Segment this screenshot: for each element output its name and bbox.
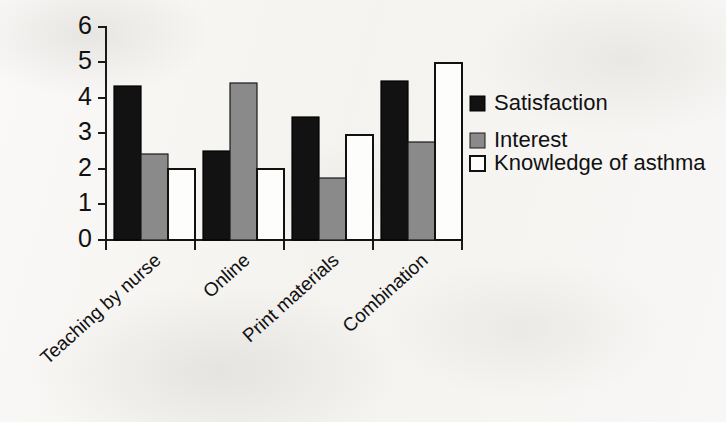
bar-group xyxy=(203,83,284,240)
y-axis-ticks xyxy=(98,27,106,240)
bar-satisfaction xyxy=(114,86,141,240)
bar-satisfaction xyxy=(381,81,408,240)
bar-interest xyxy=(408,142,435,240)
legend-swatch-interest xyxy=(470,133,485,148)
bar-satisfaction xyxy=(292,117,319,240)
legend-item-knowledge-of-asthma: Knowledge of asthma xyxy=(470,150,706,175)
category-label: Teaching by nurse xyxy=(36,249,165,368)
bar-interest xyxy=(319,178,346,240)
chart-legend: Satisfaction Interest Knowledge of asthm… xyxy=(470,90,706,175)
bar-interest xyxy=(141,154,168,240)
bar-knowledge-of-asthma xyxy=(168,169,195,240)
legend-item-satisfaction: Satisfaction xyxy=(470,90,608,115)
y-tick-label: 6 xyxy=(78,11,92,39)
legend-label-knowledge-of-asthma: Knowledge of asthma xyxy=(494,150,706,175)
bar-knowledge-of-asthma xyxy=(435,63,462,240)
y-tick-label: 2 xyxy=(78,153,92,181)
y-tick-label: 5 xyxy=(78,46,92,74)
y-tick-label: 0 xyxy=(78,224,92,252)
bar-satisfaction xyxy=(203,151,230,240)
y-tick-label: 1 xyxy=(78,188,92,216)
x-axis-ticks xyxy=(106,240,462,250)
bar-group xyxy=(292,117,373,240)
bar-group xyxy=(114,86,195,240)
category-label: Combination xyxy=(338,249,431,336)
x-axis-category-labels: Teaching by nurse Online Print materials… xyxy=(36,249,432,368)
legend-label-interest: Interest xyxy=(494,127,567,152)
bar-interest xyxy=(230,83,257,240)
legend-swatch-satisfaction xyxy=(470,96,485,111)
bar-chart: 0 1 2 3 4 5 6 xyxy=(0,0,726,422)
y-tick-label: 3 xyxy=(78,117,92,145)
chart-svg: 0 1 2 3 4 5 6 xyxy=(0,0,726,422)
bar-knowledge-of-asthma xyxy=(257,169,284,240)
y-tick-label: 4 xyxy=(78,82,92,110)
legend-swatch-knowledge-of-asthma xyxy=(470,156,485,171)
bar-knowledge-of-asthma xyxy=(346,135,373,240)
legend-label-satisfaction: Satisfaction xyxy=(494,90,608,115)
y-axis-tick-labels: 0 1 2 3 4 5 6 xyxy=(78,11,92,252)
category-label: Online xyxy=(199,249,254,301)
bar-group xyxy=(381,63,462,240)
category-label: Print materials xyxy=(238,249,342,346)
legend-item-interest: Interest xyxy=(470,127,567,152)
